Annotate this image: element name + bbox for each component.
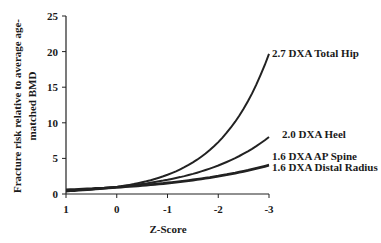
y-tick-label: 5	[53, 152, 59, 164]
y-tick-label: 0	[53, 188, 59, 200]
y-tick-label: 15	[47, 81, 59, 93]
x-tick-label: -2	[214, 203, 224, 215]
y-axis-title-line1: Fracture risk relative to average age-	[11, 19, 23, 193]
series-line	[66, 165, 269, 190]
y-tick-label: 20	[47, 46, 59, 58]
x-tick-label: 1	[63, 203, 69, 215]
y-tick-label: 25	[47, 10, 59, 22]
y-tick-label: 10	[47, 117, 59, 129]
x-axis-title: Z-Score	[149, 223, 186, 235]
y-axis-title-line2: matched BMD	[26, 72, 38, 141]
x-tick-label: -1	[163, 203, 172, 215]
series-labels: 2.7 DXA Total Hip2.0 DXA Heel1.6 DXA AP …	[272, 47, 378, 173]
series-line	[66, 54, 269, 192]
curves	[66, 54, 269, 192]
series-line	[66, 166, 269, 191]
x-tick-label: 0	[114, 203, 120, 215]
series-label: 1.6 DXA Distal Radius	[272, 161, 378, 173]
series-label: 2.7 DXA Total Hip	[272, 47, 359, 59]
x-tick-label: -3	[264, 203, 274, 215]
fracture-risk-chart: 051015202510-1-2-3 2.7 DXA Total Hip2.0 …	[0, 0, 381, 243]
series-label: 2.0 DXA Heel	[282, 128, 346, 140]
